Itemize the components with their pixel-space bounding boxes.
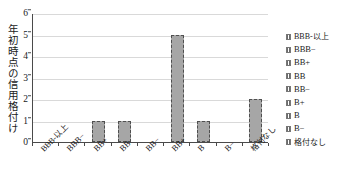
legend-swatch-icon: [286, 34, 291, 40]
legend-swatch-icon: [286, 126, 291, 132]
bar-slot: [112, 13, 138, 142]
bar-slot: [85, 13, 111, 142]
y-axis-tick-label: 2: [23, 95, 28, 105]
legend-swatch-icon: [286, 113, 291, 119]
legend-item[interactable]: B: [286, 109, 339, 122]
legend-swatch-icon: [286, 60, 291, 66]
bar-slot: [243, 13, 269, 142]
legend: BBB-以上BBB−BB+BBBB−B+BB−格付なし: [286, 30, 339, 149]
bar-slot: [217, 13, 243, 142]
legend-swatch-icon: [286, 73, 291, 79]
plot-area: [32, 14, 268, 143]
bar-slot: [190, 13, 216, 142]
y-axis-tick-mark: [28, 31, 31, 32]
x-axis-tick-mark: [216, 143, 217, 146]
y-axis-tick-label: 0: [23, 138, 28, 148]
legend-item[interactable]: BB−: [286, 83, 339, 96]
legend-swatch-icon: [286, 86, 291, 92]
y-axis-tick-label: 1: [23, 117, 28, 127]
y-axis-tick-mark: [28, 95, 31, 96]
legend-item-label: BB: [294, 72, 305, 81]
bar-slot: [33, 13, 59, 142]
legend-item[interactable]: BBB-以上: [286, 30, 339, 43]
legend-item[interactable]: BB: [286, 70, 339, 83]
legend-item[interactable]: BBB−: [286, 43, 339, 56]
y-axis-tick-labels: 0123456: [14, 14, 30, 143]
y-axis-tick-label: 6: [23, 9, 28, 19]
x-axis-tick-mark: [32, 143, 33, 146]
legend-item-label: BBB-以上: [294, 32, 329, 41]
x-axis-tick-labels: BBB-以上BBB−BB+BBBB−BB+BB−格付なし: [32, 147, 282, 192]
legend-item[interactable]: BB+: [286, 56, 339, 69]
x-axis-tick-mark: [111, 143, 112, 146]
legend-item[interactable]: B−: [286, 122, 339, 135]
bar[interactable]: [171, 35, 184, 143]
y-axis-tick-mark: [28, 138, 31, 139]
y-axis-tick-mark: [28, 117, 31, 118]
x-axis-tick-mark: [137, 143, 138, 146]
legend-item-label: B−: [294, 124, 304, 133]
bar-chart: 年初時点の信用格付け 0123456 BBB-以上BBB−BB+BBBB−BB+…: [0, 0, 339, 192]
x-axis-tick-mark: [268, 143, 269, 146]
bar-slot: [138, 13, 164, 142]
legend-item-label: BBB−: [294, 45, 316, 54]
legend-swatch-icon: [286, 100, 291, 106]
y-axis-tick-label: 3: [23, 74, 28, 84]
bar-slot: [164, 13, 190, 142]
legend-item-label: 格付なし: [294, 138, 326, 147]
bar[interactable]: [197, 121, 210, 143]
y-axis-tick-label: 5: [23, 31, 28, 41]
legend-item[interactable]: B+: [286, 96, 339, 109]
legend-item-label: BB−: [294, 85, 310, 94]
legend-swatch-icon: [286, 139, 291, 145]
legend-item-label: B: [294, 111, 300, 120]
x-axis-tick-mark: [189, 143, 190, 146]
legend-swatch-icon: [286, 47, 291, 53]
x-axis-tick-mark: [242, 143, 243, 146]
y-axis-tick-mark: [28, 9, 31, 10]
legend-item-label: BB+: [294, 58, 310, 67]
y-axis-tick-mark: [28, 52, 31, 53]
y-axis-tick-label: 4: [23, 52, 28, 62]
x-axis-tick-mark: [163, 143, 164, 146]
y-axis-tick-mark: [28, 74, 31, 75]
x-axis-tick-mark: [84, 143, 85, 146]
x-axis-tick-mark: [58, 143, 59, 146]
bars-layer: [33, 14, 268, 142]
legend-item-label: B+: [294, 98, 304, 107]
legend-item[interactable]: 格付なし: [286, 136, 339, 149]
